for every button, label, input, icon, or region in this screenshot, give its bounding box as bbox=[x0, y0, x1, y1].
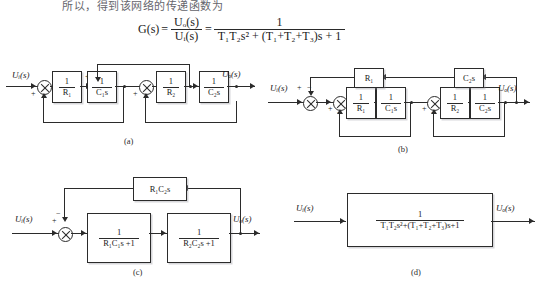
formula-lhs: G(s) bbox=[138, 22, 159, 37]
feedback-block-r1c2s-c-label: R₁C₂s bbox=[150, 185, 171, 194]
sign-plus-a1: + bbox=[31, 90, 36, 98]
block-transfer-function-d: 1 T₁T₂s²+(T₁+T₂+T₃)s+1 bbox=[347, 193, 493, 247]
input-label-d: Uᵢ(s) bbox=[296, 203, 313, 213]
arrowhead-input-d bbox=[340, 218, 345, 224]
block-diagram-a: Uᵢ(s) + − 1 R₁ + − 1 C₁s bbox=[0, 60, 262, 152]
sign-plus-b1: + bbox=[297, 84, 302, 92]
wire-fb-b3-v-right bbox=[504, 102, 505, 136]
block-inv-r2-a-num: 1 bbox=[165, 77, 177, 86]
block-inv-c2s-b-den: C₂s bbox=[475, 103, 495, 113]
arrowhead-c-lag1-to-lag2 bbox=[161, 230, 166, 236]
arrowhead-fb-c bbox=[62, 217, 68, 222]
wire-fb-a1-v-left bbox=[43, 96, 44, 122]
block-inv-c1s-a: 1 C₁s bbox=[87, 71, 117, 103]
sign-minus-c: − bbox=[56, 210, 61, 218]
transfer-function-formula: G(s) = Uₒ(s) Uᵢ(s) = 1 T₁T₂s² + (T₁+T₂+T… bbox=[138, 16, 345, 43]
output-label-b: Uₒ(s) bbox=[498, 83, 517, 93]
arrowhead-fb-b3 bbox=[431, 109, 437, 114]
formula-numerator: 1 bbox=[272, 16, 286, 29]
block-inv-c2s-a-den: C₂s bbox=[204, 87, 224, 97]
wire-fb-b2-v-left bbox=[339, 112, 340, 136]
feedback-block-c2s-b-label: C₂s bbox=[463, 74, 475, 83]
wire-fb-a2-v-left bbox=[97, 64, 98, 78]
wire-fb-c-v-left bbox=[64, 188, 65, 218]
wire-fb-a3-h bbox=[145, 122, 237, 123]
formula-equals-2: = bbox=[205, 22, 212, 37]
output-label-a: Uₒ(s) bbox=[222, 69, 241, 79]
arrowhead-input-b bbox=[297, 99, 302, 105]
formula-expression: 1 T₁T₂s² + (T₁+T₂+T₃)s + 1 bbox=[214, 16, 346, 43]
caption-c: (c) bbox=[133, 267, 142, 277]
block-inv-c2s-a-num: 1 bbox=[208, 77, 220, 86]
block-inv-c2s-b-num: 1 bbox=[479, 93, 491, 102]
input-label-c: Uᵢ(s) bbox=[15, 214, 32, 224]
sign-plus-c: + bbox=[52, 217, 57, 225]
wire-fb-a1-h bbox=[43, 122, 124, 123]
wire-fb-b-c2s-out bbox=[383, 77, 454, 78]
wire-fb-b-c2s-v bbox=[516, 77, 517, 102]
block-diagram-d: Uᵢ(s) 1 T₁T₂s²+(T₁+T₂+T₃)s+1 Uₒ(s) (d) bbox=[268, 155, 534, 282]
feedback-block-r1c2s-c: R₁C₂s bbox=[133, 177, 187, 201]
wire-c1s-to-b3 bbox=[404, 102, 428, 103]
block-inv-r1-a: 1 R₁ bbox=[52, 71, 82, 103]
block-lag-2-c: 1 R₂C₂s +1 bbox=[167, 213, 231, 263]
output-label-c: Uₒ(s) bbox=[233, 214, 252, 224]
block-inv-r1-a-num: 1 bbox=[61, 77, 73, 86]
wire-b1-to-b2 bbox=[316, 102, 334, 103]
formula-output-input-ratio: Uₒ(s) Uᵢ(s) bbox=[170, 16, 203, 43]
wire-fb-b2-v-right bbox=[410, 102, 411, 136]
arrowhead-output-b bbox=[524, 99, 529, 105]
block-inv-r1-b-num: 1 bbox=[355, 93, 367, 102]
lead-in-text: 所以，得到该网络的传递函数为 bbox=[62, 0, 223, 13]
sign-plus-a3: + bbox=[133, 90, 138, 98]
caption-d: (d) bbox=[411, 267, 421, 277]
wire-fb-a1-v-right bbox=[123, 86, 124, 122]
arrowhead-output-a bbox=[250, 83, 255, 89]
block-lag-1-c-num: 1 bbox=[113, 228, 125, 237]
wire-fb-c-h-right bbox=[185, 188, 241, 189]
arrowhead-fb-a3 bbox=[143, 93, 149, 98]
input-label-a: Uᵢ(s) bbox=[12, 70, 29, 80]
block-inv-r2-b-den: R₂ bbox=[447, 103, 464, 113]
arrowhead-fb-a2 bbox=[95, 77, 101, 82]
sign-plus-b2: + bbox=[328, 105, 333, 113]
block-diagram-c: Uᵢ(s) + − 1 R₁C₁s +1 1 R₂C₂s +1 Uₒ(s) bbox=[0, 155, 262, 282]
block-inv-r1-b-den: R₁ bbox=[353, 103, 370, 113]
wire-input-d bbox=[294, 221, 346, 222]
caption-b: (b) bbox=[398, 144, 408, 154]
formula-denominator: T₁T₂s² + (T₁+T₂+T₃)s + 1 bbox=[214, 29, 346, 43]
wire-fb-b3-v-left bbox=[433, 112, 434, 136]
feedback-block-r1-b-label: R₁ bbox=[365, 74, 374, 83]
arrowhead-fb-b2 bbox=[337, 109, 343, 114]
wire-fb-c-v-right bbox=[240, 188, 241, 233]
block-lag-2-c-num: 1 bbox=[193, 228, 205, 237]
block-transfer-function-d-den: T₁T₂s²+(T₁+T₂+T₃)s+1 bbox=[376, 220, 463, 230]
arrowhead-c-sum-to-lag1 bbox=[81, 230, 86, 236]
block-transfer-function-d-num: 1 bbox=[414, 210, 426, 219]
sign-plus-b3: + bbox=[422, 105, 427, 113]
arrowhead-output-d bbox=[529, 218, 534, 224]
block-inv-r2-b-num: 1 bbox=[449, 93, 461, 102]
arrowhead-fb-b-r1 bbox=[308, 91, 314, 96]
output-label-d: Uₒ(s) bbox=[496, 203, 515, 213]
block-diagram-b: Uᵢ(s) + − + − 1 R₁ 1 C₁s bbox=[268, 60, 534, 152]
summing-junction-b1 bbox=[303, 96, 318, 111]
block-inv-c1s-a-den: C₁s bbox=[92, 87, 112, 97]
arrowhead-output-c bbox=[254, 230, 259, 236]
formula-ratio-numerator: Uₒ(s) bbox=[170, 16, 203, 29]
node-a-c2out bbox=[235, 85, 238, 88]
block-inv-r2-a: 1 R₂ bbox=[156, 71, 186, 103]
input-label-b: Uᵢ(s) bbox=[270, 83, 287, 93]
block-inv-c2s-b: 1 C₂s bbox=[470, 87, 500, 119]
block-inv-r2-a-den: R₂ bbox=[163, 87, 180, 97]
formula-ratio-denominator: Uᵢ(s) bbox=[171, 29, 202, 43]
feedback-block-r1-b: R₁ bbox=[354, 68, 384, 88]
block-inv-r1-b: 1 R₁ bbox=[346, 87, 376, 119]
caption-a: (a) bbox=[124, 136, 133, 146]
wire-fb-a2-h bbox=[97, 64, 190, 65]
wire-fb-a3-v-right bbox=[236, 101, 237, 122]
wire-fb-c-h-left bbox=[64, 188, 133, 189]
wire-fb-b3-h bbox=[433, 136, 505, 137]
arrowhead-input-c bbox=[52, 230, 57, 236]
wire-fb-b-r1-out bbox=[310, 77, 354, 78]
